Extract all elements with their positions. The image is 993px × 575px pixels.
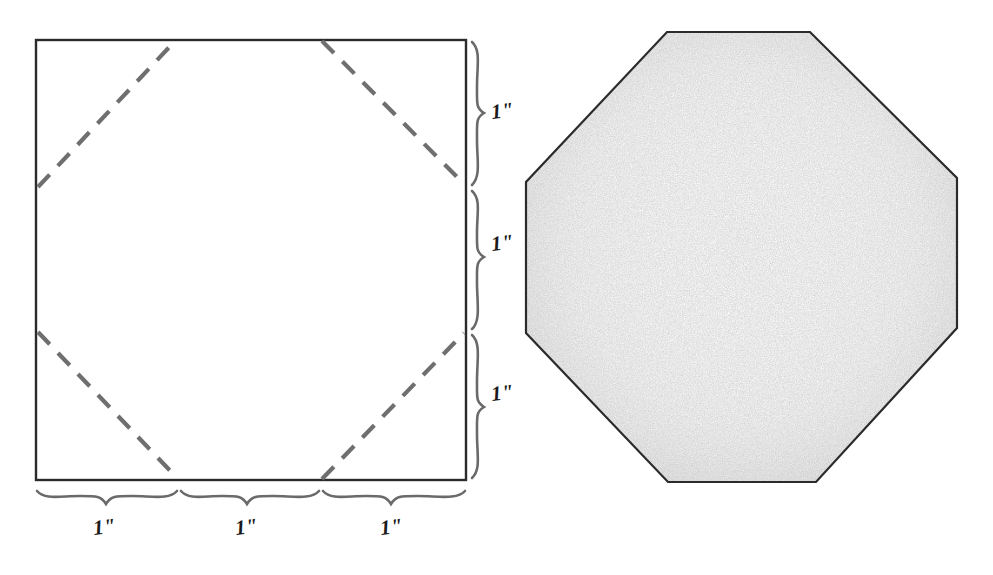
left-panel-square-with-cuts: 1" 1" 1" 1" 1" 1"	[36, 40, 515, 540]
dashed-cut-top-left	[38, 41, 175, 187]
dimension-label-right-bottom: 1"	[490, 379, 515, 406]
brace-bottom-middle	[181, 491, 319, 504]
dimension-label-right-top: 1"	[490, 97, 515, 124]
dimension-label-right-middle: 1"	[490, 229, 515, 256]
bottom-braces	[37, 491, 465, 504]
brace-bottom-right	[323, 491, 465, 504]
dashed-cut-bottom-left	[38, 332, 178, 479]
brace-right-bottom	[472, 335, 484, 478]
dimension-label-bottom-left: 1"	[92, 513, 117, 540]
figure-root: 1" 1" 1" 1" 1" 1"	[0, 0, 993, 575]
dashed-cut-bottom-right	[322, 333, 464, 479]
diagram-canvas: 1" 1" 1" 1" 1" 1"	[0, 0, 993, 575]
brace-right-top	[472, 42, 484, 185]
dashed-cut-lines	[38, 41, 464, 479]
dimension-label-bottom-right: 1"	[379, 513, 404, 540]
dashed-cut-top-right	[322, 41, 464, 184]
brace-right-middle	[472, 191, 484, 329]
octagon-edge-shading	[520, 26, 965, 488]
square-outline	[36, 40, 466, 480]
right-side-braces	[472, 42, 484, 478]
right-panel-octagon	[520, 26, 965, 488]
brace-bottom-left	[37, 491, 177, 504]
dimension-label-bottom-middle: 1"	[234, 513, 259, 540]
